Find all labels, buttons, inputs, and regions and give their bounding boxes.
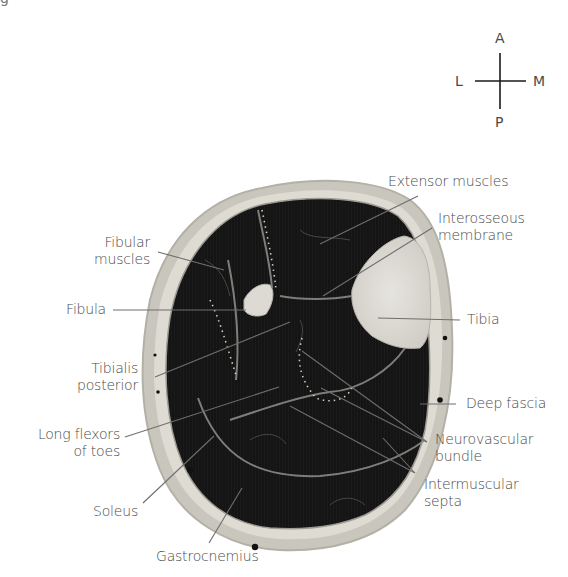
label-long-flexors-of-toes: Long flexors of toes [38, 426, 120, 460]
label-tibialis-posterior: Tibialis posterior [77, 360, 138, 394]
compass-posterior-label: P [495, 114, 503, 130]
label-interosseous-membrane: Interosseous membrane [438, 210, 525, 244]
label-extensor-muscles: Extensor muscles [388, 173, 508, 190]
leg-cross-section-figure: g [0, 0, 568, 577]
label-deep-fascia: Deep fascia [466, 395, 546, 412]
label-fibula: Fibula [66, 301, 106, 318]
orientation-compass [475, 53, 526, 109]
label-gastrocnemius: Gastrocnemius [156, 548, 259, 565]
compass-anterior-label: A [495, 30, 505, 46]
label-intermuscular-septa: Intermuscular septa [424, 476, 519, 510]
label-fibular-muscles: Fibular muscles [94, 234, 150, 268]
label-tibia: Tibia [467, 311, 499, 328]
compass-medial-label: M [533, 73, 545, 89]
label-soleus: Soleus [93, 503, 138, 520]
label-neurovascular-bundle: Neurovascular bundle [435, 431, 533, 465]
compass-lateral-label: L [455, 73, 463, 89]
